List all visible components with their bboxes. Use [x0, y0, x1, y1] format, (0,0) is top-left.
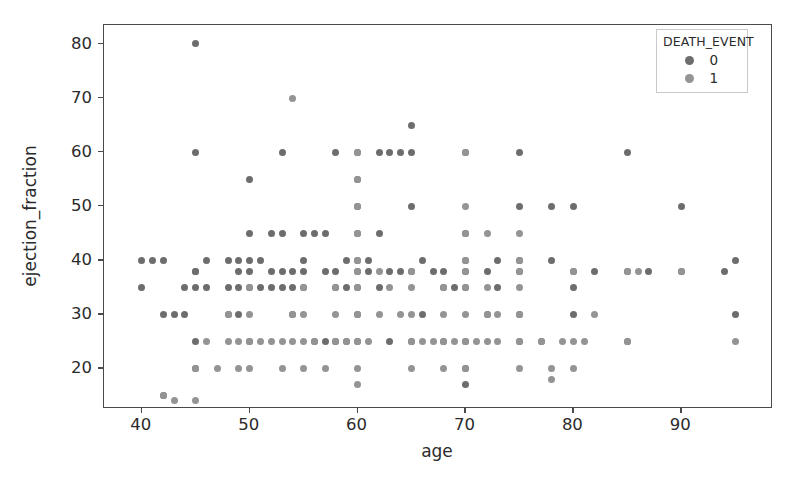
- data-point: [419, 311, 426, 318]
- data-point: [192, 40, 199, 47]
- data-point: [516, 365, 523, 372]
- data-point: [397, 268, 404, 275]
- data-point: [397, 149, 404, 156]
- data-point: [570, 268, 577, 275]
- y-tick-label: 70: [71, 88, 92, 107]
- data-point: [246, 230, 253, 237]
- x-tick-label: 60: [346, 415, 367, 434]
- data-point: [279, 284, 286, 291]
- legend: DEATH_EVENT 01: [656, 29, 748, 93]
- data-point: [257, 257, 264, 264]
- data-point: [570, 338, 577, 345]
- data-point: [484, 268, 491, 275]
- data-point: [494, 311, 501, 318]
- data-point: [160, 311, 167, 318]
- data-point: [440, 311, 447, 318]
- legend-marker-icon: [685, 74, 694, 83]
- data-point: [376, 149, 383, 156]
- data-point: [462, 338, 469, 345]
- data-point: [516, 230, 523, 237]
- data-point: [300, 284, 307, 291]
- data-point: [591, 311, 598, 318]
- data-point: [235, 268, 242, 275]
- data-point: [203, 338, 210, 345]
- data-point: [516, 284, 523, 291]
- data-point: [300, 365, 307, 372]
- data-point: [300, 268, 307, 275]
- data-point: [279, 365, 286, 372]
- y-tick-label: 60: [71, 142, 92, 161]
- y-tick-label: 40: [71, 250, 92, 269]
- data-point: [289, 311, 296, 318]
- data-point: [548, 257, 555, 264]
- data-point: [311, 230, 318, 237]
- data-point: [473, 338, 480, 345]
- data-point: [408, 268, 415, 275]
- x-tick-label: 70: [454, 415, 475, 434]
- data-point: [732, 311, 739, 318]
- data-point: [462, 268, 469, 275]
- x-tick-label: 80: [562, 415, 583, 434]
- data-point: [268, 284, 275, 291]
- data-point: [570, 284, 577, 291]
- data-point: [721, 268, 728, 275]
- data-point: [138, 284, 145, 291]
- data-point: [548, 365, 555, 372]
- data-point: [268, 268, 275, 275]
- data-point: [300, 230, 307, 237]
- data-point: [235, 311, 242, 318]
- data-point: [570, 365, 577, 372]
- data-point: [386, 149, 393, 156]
- data-point: [160, 257, 167, 264]
- data-point: [332, 338, 339, 345]
- data-point: [451, 338, 458, 345]
- data-point: [246, 257, 253, 264]
- data-point: [289, 95, 296, 102]
- data-point: [192, 149, 199, 156]
- data-point: [408, 311, 415, 318]
- data-point: [192, 338, 199, 345]
- data-point: [440, 365, 447, 372]
- data-point: [548, 376, 555, 383]
- data-point: [203, 257, 210, 264]
- data-point: [138, 257, 145, 264]
- x-axis-label: age: [421, 441, 453, 461]
- y-tick-label: 50: [71, 196, 92, 215]
- data-point: [462, 230, 469, 237]
- data-point: [343, 284, 350, 291]
- data-point: [462, 203, 469, 210]
- data-point: [225, 284, 232, 291]
- legend-item[interactable]: 1: [663, 69, 741, 87]
- data-point: [624, 268, 631, 275]
- data-point: [354, 203, 361, 210]
- data-point: [430, 268, 437, 275]
- data-point: [322, 230, 329, 237]
- data-point: [354, 176, 361, 183]
- legend-item[interactable]: 0: [663, 51, 741, 69]
- data-point: [289, 268, 296, 275]
- data-point: [408, 338, 415, 345]
- data-point: [462, 257, 469, 264]
- data-point: [279, 338, 286, 345]
- data-point: [354, 338, 361, 345]
- x-tick-mark: [464, 408, 465, 413]
- data-point: [451, 284, 458, 291]
- data-point: [279, 268, 286, 275]
- data-point: [246, 311, 253, 318]
- y-tick-label: 30: [71, 304, 92, 323]
- data-point: [516, 268, 523, 275]
- data-point: [160, 392, 167, 399]
- data-point: [408, 122, 415, 129]
- data-point: [430, 338, 437, 345]
- data-point: [257, 338, 264, 345]
- data-point: [365, 268, 372, 275]
- data-point: [332, 149, 339, 156]
- y-axis-label: ejection_fraction: [20, 145, 40, 286]
- data-point: [624, 149, 631, 156]
- x-tick-mark: [680, 408, 681, 413]
- data-point: [462, 365, 469, 372]
- legend-item-label: 0: [710, 52, 720, 68]
- data-point: [408, 365, 415, 372]
- data-point: [354, 257, 361, 264]
- data-point: [354, 365, 361, 372]
